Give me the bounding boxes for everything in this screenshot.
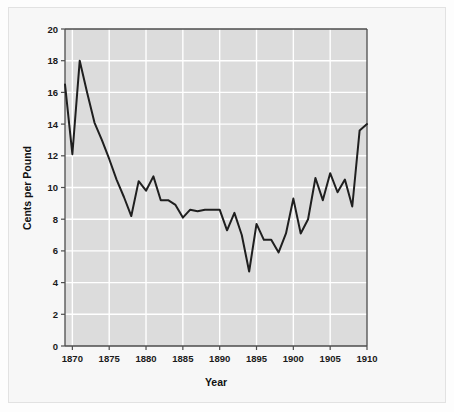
y-axis-tick-labels: 02468101214161820 (47, 24, 58, 352)
line-chart: 02468101214161820 1870187518801885189018… (9, 8, 447, 404)
tick-label-x: 1905 (320, 353, 342, 364)
tick-label-x: 1875 (99, 353, 121, 364)
tick-label-y: 4 (53, 277, 59, 288)
tick-label-y: 2 (53, 309, 58, 320)
y-axis-title: Cents per Pound (21, 146, 33, 230)
tick-label-x: 1870 (62, 353, 83, 364)
tick-label-x: 1900 (283, 353, 304, 364)
tick-label-y: 10 (47, 182, 58, 193)
tick-label-x: 1890 (209, 353, 230, 364)
chart-panel: 02468101214161820 1870187518801885189018… (8, 7, 446, 403)
tick-label-y: 8 (53, 214, 58, 225)
tick-label-y: 12 (47, 150, 58, 161)
tick-label-y: 14 (47, 119, 58, 130)
tick-label-x: 1880 (135, 353, 156, 364)
tick-label-x: 1895 (246, 353, 268, 364)
x-axis-tick-labels: 187018751880188518901895190019051910 (62, 353, 378, 364)
tick-label-x: 1910 (356, 353, 377, 364)
tick-label-y: 6 (53, 245, 58, 256)
tick-label-y: 0 (53, 341, 58, 352)
tick-label-x: 1885 (172, 353, 194, 364)
tick-label-y: 16 (47, 87, 58, 98)
chart-figure: 02468101214161820 1870187518801885189018… (0, 0, 454, 412)
tick-label-y: 20 (47, 24, 58, 35)
tick-label-y: 18 (47, 55, 58, 66)
x-axis-title: Year (205, 376, 227, 388)
